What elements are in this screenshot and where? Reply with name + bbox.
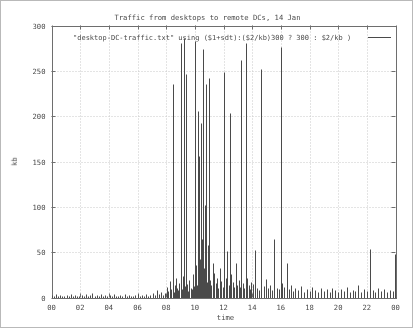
x-tick-label: 02 [68, 303, 92, 312]
x-tick-label: 14 [240, 303, 264, 312]
x-axis-label: time [1, 313, 413, 322]
y-tick-label: 200 [18, 112, 46, 121]
chart-frame: Traffic from desktops to remote DCs, 14 … [0, 0, 413, 328]
page-title: Traffic from desktops to remote DCs, 14 … [1, 13, 413, 22]
x-tick-label: 04 [97, 303, 121, 312]
y-tick-label: 250 [18, 67, 46, 76]
legend-entry: "desktop-DC-traffic.txt" using ($1+sdt):… [73, 34, 351, 42]
y-tick-label: 0 [18, 294, 46, 303]
x-tick-label: 18 [298, 303, 322, 312]
x-tick-label: 08 [154, 303, 178, 312]
x-tick-label: 16 [269, 303, 293, 312]
x-tick-label: 20 [326, 303, 350, 312]
x-tick-label: 00 [40, 303, 64, 312]
x-tick-label: 10 [183, 303, 207, 312]
y-tick-label: 100 [18, 203, 46, 212]
x-tick-label: 12 [212, 303, 236, 312]
x-tick-label: 22 [355, 303, 379, 312]
x-tick-label: 00 [384, 303, 408, 312]
x-tick-label: 06 [126, 303, 150, 312]
y-tick-label: 300 [18, 22, 46, 31]
plot-canvas [1, 1, 413, 328]
y-tick-label: 50 [18, 248, 46, 257]
y-tick-label: 150 [18, 158, 46, 167]
